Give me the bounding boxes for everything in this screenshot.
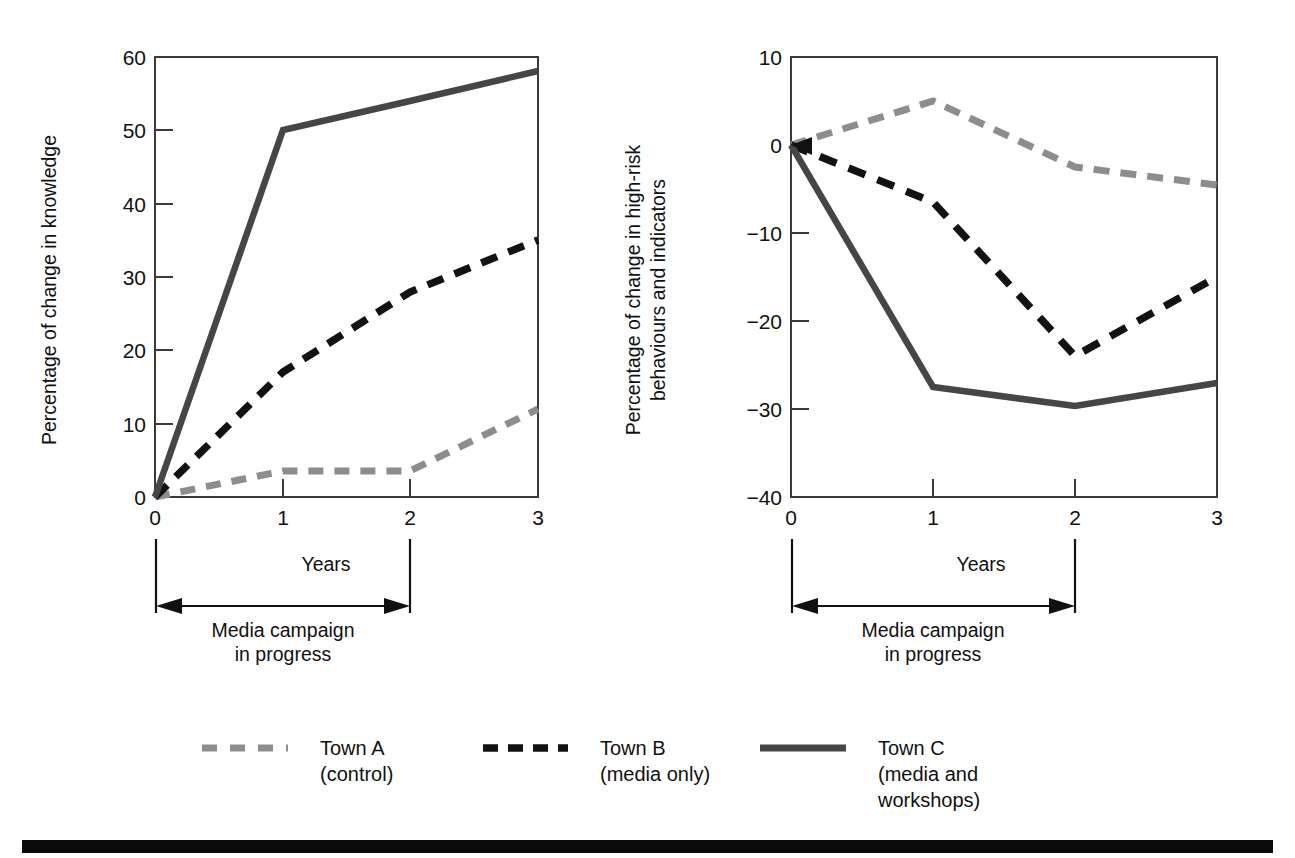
left-x-tick-labels: 0 1 2 3 [149,506,544,529]
left-chart-panel: Percentage of change in knowledge 60 50 … [38,46,544,665]
left-ytick-0: 0 [134,486,146,509]
left-xtick-0: 0 [149,506,161,529]
right-xtick-0: 0 [785,506,797,529]
right-xtick-3: 3 [1211,506,1223,529]
right-y-axis-label-line-1: Percentage of change in high-risk [622,144,644,435]
left-series-town-a [155,409,538,497]
left-ytick-50: 50 [123,119,146,142]
legend-label-town-b: Town B [600,737,666,759]
right-x-tick-labels: 0 1 2 3 [785,506,1223,529]
legend-label-town-c: Town C [878,737,945,759]
right-xtick-1: 1 [927,506,939,529]
legend-item-town-c[interactable]: Town C (media and workshops) [760,737,980,811]
left-series-town-c [155,71,538,497]
right-ytick-0: 0 [770,134,782,157]
left-ytick-40: 40 [123,193,146,216]
footer-divider-bar [22,840,1273,853]
right-years-label: Years [956,553,1005,575]
left-series-town-b [155,240,538,497]
right-ytick-neg10: −10 [746,222,782,245]
right-ytick-neg30: −30 [746,398,782,421]
legend-label-town-a: Town A [320,737,385,759]
left-campaign-line-2: in progress [235,643,332,665]
legend-item-town-a[interactable]: Town A (control) [202,737,393,785]
legend-sublabel-town-a: (control) [320,763,393,785]
right-x-ticks [933,479,1075,497]
right-campaign-line-1: Media campaign [861,619,1004,641]
left-ytick-20: 20 [123,339,146,362]
right-ytick-10: 10 [759,46,782,69]
left-ytick-60: 60 [123,46,146,69]
right-xtick-2: 2 [1069,506,1081,529]
left-y-ticks [155,57,173,424]
right-campaign-line-2: in progress [885,643,982,665]
right-campaign-bracket [792,539,1075,614]
right-ytick-neg40: −40 [746,486,782,509]
right-y-tick-labels: 10 0 −10 −20 −30 −40 [746,46,782,509]
right-ytick-neg20: −20 [746,310,782,333]
left-xtick-1: 1 [277,506,289,529]
right-y-ticks [791,57,809,409]
left-x-ticks [283,479,410,497]
left-y-tick-labels: 60 50 40 30 20 10 0 [123,46,146,509]
left-ytick-30: 30 [123,266,146,289]
right-chart-panel: Percentage of change in high-risk behavi… [622,46,1223,665]
left-y-axis-label: Percentage of change in knowledge [38,135,60,445]
legend-sublabel-town-b: (media only) [600,763,710,785]
legend-sublabel-town-c: (media and [878,763,978,785]
right-y-axis-label-line-2: behaviours and indicators [647,179,669,401]
left-plot-frame [155,57,538,497]
legend-sublabel2-town-c: workshops) [877,789,980,811]
chart-legend: Town A (control) Town B (media only) Tow… [202,737,980,811]
two-panel-line-chart: Percentage of change in knowledge 60 50 … [0,0,1295,858]
legend-item-town-b[interactable]: Town B (media only) [483,737,710,785]
left-xtick-2: 2 [404,506,416,529]
left-years-label: Years [301,553,350,575]
left-xtick-3: 3 [532,506,544,529]
left-campaign-bracket [156,539,410,614]
left-campaign-line-1: Media campaign [211,619,354,641]
left-ytick-10: 10 [123,413,146,436]
figure-canvas: Percentage of change in knowledge 60 50 … [0,0,1295,858]
